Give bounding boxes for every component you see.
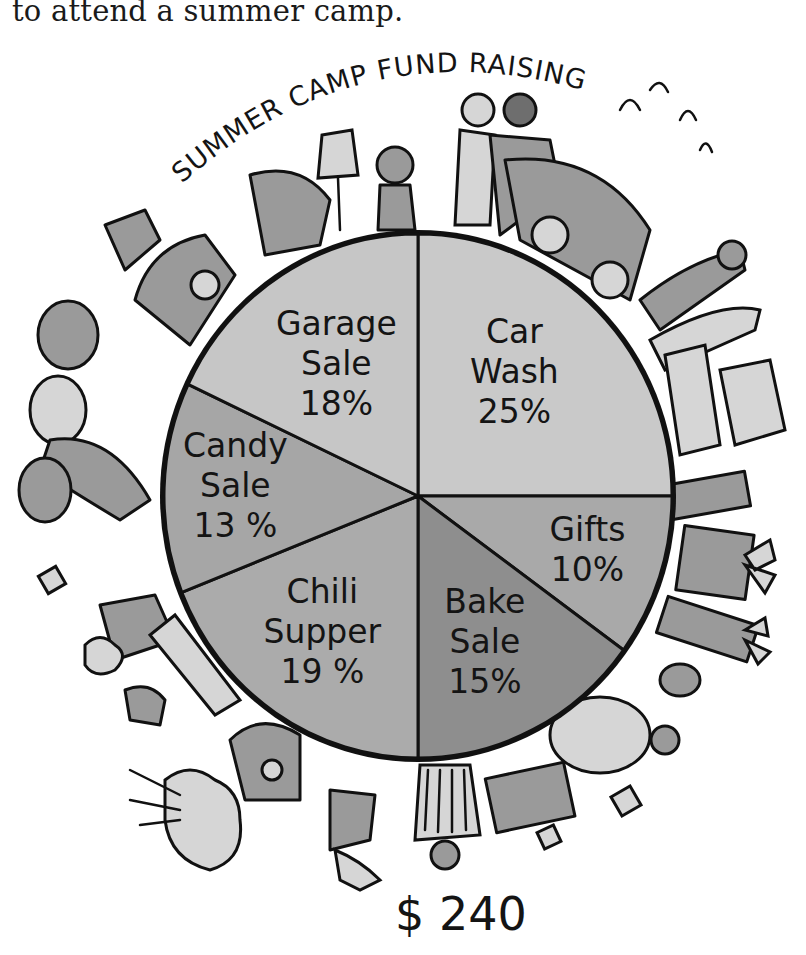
price-tag-icon xyxy=(611,786,641,816)
slice-percent-bake-sale: 15% xyxy=(448,662,521,701)
slice-label-garage-sale: Garage xyxy=(276,304,397,343)
slice-label-garage-sale: Sale xyxy=(301,344,372,383)
slice-percent-chili-supper: 19 % xyxy=(280,652,364,691)
lampshade-icon xyxy=(105,210,160,270)
slice-label-candy-sale: Candy xyxy=(183,426,288,465)
balloon-icon xyxy=(38,301,98,369)
lamp-shade-icon xyxy=(318,130,358,178)
slice-label-gifts: Gifts xyxy=(549,510,625,549)
price-tag-icon xyxy=(38,566,65,593)
slice-percent-garage-sale: 18% xyxy=(300,384,373,423)
slice-label-chili-supper: Chili xyxy=(287,572,358,611)
person-icon xyxy=(377,147,413,183)
slice-percent-candy-sale: 13 % xyxy=(193,506,277,545)
car-front-icon xyxy=(665,345,720,455)
gift-box-icon xyxy=(676,525,754,599)
pie-chart: CarWash25%Gifts10%BakeSale15%ChiliSupper… xyxy=(0,0,806,955)
slice-label-bake-sale: Sale xyxy=(450,622,521,661)
slice-label-car-wash: Wash xyxy=(470,352,559,391)
slice-label-bake-sale: Bake xyxy=(444,582,525,621)
cake-icon xyxy=(485,762,575,832)
armchair-icon xyxy=(250,171,330,255)
total-amount: $ 240 xyxy=(395,887,527,941)
slice-label-car-wash: Car xyxy=(486,312,543,351)
slice-percent-car-wash: 25% xyxy=(478,392,551,431)
slice-percent-gifts: 10% xyxy=(551,550,624,589)
slice-label-candy-sale: Sale xyxy=(200,466,271,505)
slice-label-chili-supper: Supper xyxy=(264,612,382,651)
